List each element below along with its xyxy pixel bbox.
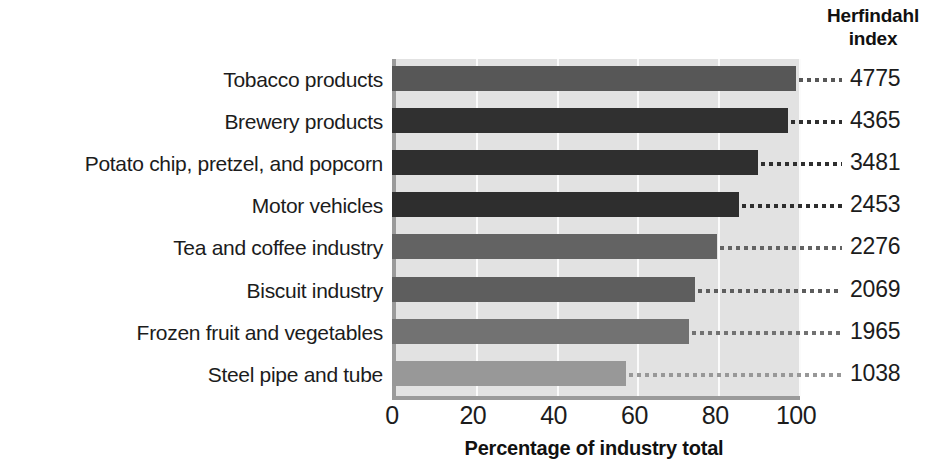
bar xyxy=(392,319,689,344)
category-label: Steel pipe and tube xyxy=(208,362,383,387)
category-label: Potato chip, pretzel, and popcorn xyxy=(85,151,383,176)
bar xyxy=(392,108,788,133)
bar-row: Biscuit industry2069 xyxy=(0,270,946,312)
x-tick-label: 0 xyxy=(385,400,398,430)
bar xyxy=(392,361,626,386)
herfindahl-index-value: 1965 xyxy=(850,318,900,345)
leader-dots xyxy=(720,246,842,250)
category-label: Frozen fruit and vegetables xyxy=(137,320,383,345)
x-axis-title: Percentage of industry total xyxy=(392,437,796,460)
category-label: Tea and coffee industry xyxy=(173,235,383,260)
x-tick-label: 60 xyxy=(621,400,648,430)
herfindahl-index-value: 2069 xyxy=(850,276,900,303)
x-tick-label: 100 xyxy=(776,400,816,430)
herfindahl-index-value: 1038 xyxy=(850,360,900,387)
category-label: Tobacco products xyxy=(223,67,383,92)
category-label: Motor vehicles xyxy=(252,193,383,218)
bar-row: Tea and coffee industry2276 xyxy=(0,227,946,269)
leader-dots xyxy=(629,373,842,377)
herfindahl-index-value: 3481 xyxy=(850,149,900,176)
leader-dots xyxy=(692,331,842,335)
leader-dots xyxy=(761,162,842,166)
leader-dots xyxy=(799,78,842,82)
x-tick-label: 40 xyxy=(540,400,567,430)
bar-row: Steel pipe and tube1038 xyxy=(0,354,946,396)
herfindahl-index-value: 4775 xyxy=(850,65,900,92)
bar xyxy=(392,150,758,175)
x-tick-label: 80 xyxy=(702,400,729,430)
bar-row: Motor vehicles2453 xyxy=(0,185,946,227)
x-axis-ticks: 020406080100 xyxy=(0,400,946,432)
bar xyxy=(392,66,796,91)
category-label: Biscuit industry xyxy=(247,278,383,303)
bar-row: Potato chip, pretzel, and popcorn3481 xyxy=(0,143,946,185)
bar xyxy=(392,277,695,302)
herfindahl-index-value: 2453 xyxy=(850,191,900,218)
category-label: Brewery products xyxy=(224,109,383,134)
herfindahl-index-value: 4365 xyxy=(850,107,900,134)
bar xyxy=(392,192,739,217)
x-tick-label: 20 xyxy=(459,400,486,430)
horizontal-bar-chart: Tobacco products4775Brewery products4365… xyxy=(0,0,946,471)
leader-dots xyxy=(791,120,842,124)
bar-row: Tobacco products4775 xyxy=(0,59,946,101)
bar xyxy=(392,234,717,259)
leader-dots xyxy=(698,289,842,293)
herfindahl-index-value: 2276 xyxy=(850,233,900,260)
leader-dots xyxy=(742,204,842,208)
bar-row: Frozen fruit and vegetables1965 xyxy=(0,312,946,354)
bar-row: Brewery products4365 xyxy=(0,101,946,143)
